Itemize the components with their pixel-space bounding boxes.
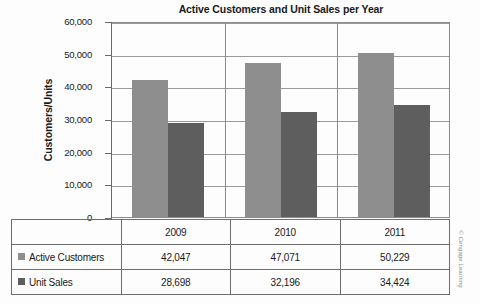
column-header-2010: 2010	[231, 220, 341, 245]
legend-swatch-icon	[18, 278, 25, 285]
bar-2011-series-1	[394, 105, 430, 217]
chart-figure: Active Customers and Unit Sales per Year…	[0, 0, 480, 304]
cell-2010-series-0: 47,071	[231, 245, 341, 270]
cell-2009-series-0: 42,047	[121, 245, 231, 270]
group-separator	[225, 23, 226, 217]
group-separator	[337, 23, 338, 217]
table-row: Unit Sales28,69832,19634,424	[12, 270, 450, 295]
y-axis-tick	[105, 153, 112, 154]
y-axis-tick-label: 10,000	[0, 179, 101, 190]
bar-2009-series-0	[132, 80, 168, 217]
cell-2010-series-1: 32,196	[231, 270, 341, 295]
legend-series-name: Active Customers	[29, 252, 104, 263]
copyright-credit-label: © Cengage Learning	[458, 230, 464, 287]
cell-2011-series-1: 34,424	[340, 270, 450, 295]
plot-area	[112, 22, 450, 218]
y-axis-tick	[105, 22, 112, 23]
table-header-row: 200920102011	[12, 220, 450, 245]
legend-swatch-icon	[18, 253, 25, 260]
y-axis-tick-label: 30,000	[0, 114, 101, 125]
y-axis-tick-label: 20,000	[0, 147, 101, 158]
table-corner-cell	[12, 220, 122, 245]
copyright-credit: © Cengage Learning	[455, 216, 467, 302]
y-axis-tick	[105, 120, 112, 121]
y-axis-tick-label: 50,000	[0, 49, 101, 60]
data-table-body: 200920102011Active Customers42,04747,071…	[12, 220, 450, 295]
bar-2010-series-1	[281, 112, 317, 217]
cell-2009-series-1: 28,698	[121, 270, 231, 295]
y-axis-tick	[105, 55, 112, 56]
gridline	[112, 23, 449, 24]
plot-inner	[112, 23, 449, 217]
legend-row-label-1: Unit Sales	[12, 270, 122, 295]
y-axis-tick-label: 40,000	[0, 81, 101, 92]
data-table: 200920102011Active Customers42,04747,071…	[11, 219, 450, 295]
legend-series-name: Unit Sales	[29, 277, 73, 288]
column-header-2009: 2009	[121, 220, 231, 245]
y-axis-tick	[105, 185, 112, 186]
page-title: Active Customers and Unit Sales per Year	[112, 3, 450, 15]
bar-2011-series-0	[358, 53, 394, 217]
y-axis-tick	[105, 87, 112, 88]
gridline	[112, 56, 449, 57]
y-axis-tick-label: 60,000	[0, 16, 101, 27]
column-header-2011: 2011	[340, 220, 450, 245]
legend-row-label-0: Active Customers	[12, 245, 122, 270]
table-row: Active Customers42,04747,07150,229	[12, 245, 450, 270]
bar-2010-series-0	[245, 63, 281, 217]
bar-2009-series-1	[168, 123, 204, 217]
cell-2011-series-0: 50,229	[340, 245, 450, 270]
